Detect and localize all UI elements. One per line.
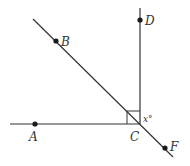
label-d: D	[144, 14, 155, 28]
label-b: B	[60, 35, 70, 49]
point-b	[53, 38, 58, 43]
angle-label-x: x°	[143, 114, 153, 124]
label-a: A	[28, 130, 38, 144]
point-a	[32, 121, 37, 126]
point-d	[137, 17, 142, 22]
point-f	[162, 145, 167, 150]
geometry-diagram: A B C D F x°	[0, 0, 190, 166]
label-c: C	[130, 130, 139, 144]
label-f: F	[169, 140, 179, 154]
